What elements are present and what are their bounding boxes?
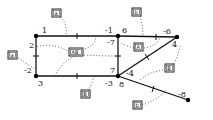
connector-A-left bbox=[120, 43, 134, 48]
port-label: 4 bbox=[172, 40, 177, 49]
svg-text:a: a bbox=[55, 10, 58, 16]
port-label: -7 bbox=[107, 38, 115, 47]
connector-B-bottom bbox=[88, 76, 94, 91]
port-label: -3 bbox=[105, 79, 113, 88]
connector-ab-left bbox=[36, 45, 70, 52]
box-b-top: b bbox=[132, 8, 141, 16]
box-a-top: a bbox=[52, 9, 61, 17]
connector-B-right bbox=[140, 70, 166, 80]
box-a-left: a bbox=[8, 51, 17, 59]
port-label: 8 bbox=[119, 80, 124, 89]
node bbox=[34, 74, 38, 78]
port-label: -6 bbox=[163, 27, 171, 36]
box-A-right: A bbox=[134, 43, 143, 51]
connector-ab-mid bbox=[84, 55, 118, 56]
connector-ab-right bbox=[82, 36, 96, 50]
svg-text:b: b bbox=[135, 9, 138, 15]
node bbox=[116, 34, 120, 38]
port-label: 1 bbox=[42, 26, 47, 35]
connector-b-top bbox=[140, 16, 143, 37]
svg-text:B: B bbox=[167, 65, 171, 71]
box-B-bottom: B bbox=[81, 90, 90, 98]
graph-diagram: 1 2 -1 6 -7 -6 4 -2 3 7 -3 8 -4 -8 a b A… bbox=[0, 0, 213, 120]
node bbox=[175, 35, 179, 39]
tick bbox=[152, 86, 154, 92]
port-label: -1 bbox=[105, 26, 113, 35]
svg-text:a: a bbox=[11, 52, 14, 58]
connector-B-up bbox=[172, 46, 180, 66]
connector-b-bottom bbox=[142, 90, 166, 105]
node bbox=[116, 74, 120, 78]
port-label: -2 bbox=[24, 66, 32, 75]
box-B-right: B bbox=[165, 64, 174, 72]
svg-text:AB: AB bbox=[72, 49, 79, 55]
connector-A-right bbox=[144, 37, 160, 48]
port-label: 2 bbox=[29, 41, 34, 50]
connector-a-top bbox=[60, 17, 66, 36]
port-label: 6 bbox=[122, 26, 127, 35]
port-label: 7 bbox=[110, 66, 115, 75]
node bbox=[186, 98, 190, 102]
edge-top-right bbox=[118, 36, 177, 37]
box-ab-center: AB bbox=[69, 48, 83, 56]
svg-text:b: b bbox=[136, 102, 139, 108]
port-label: -4 bbox=[126, 69, 134, 78]
svg-text:A: A bbox=[137, 44, 141, 50]
box-b-bottom-right: b bbox=[133, 101, 142, 109]
node bbox=[34, 34, 38, 38]
port-label: -8 bbox=[178, 90, 186, 99]
svg-text:B: B bbox=[83, 91, 87, 97]
port-label: 3 bbox=[38, 79, 43, 88]
connector-ab-down bbox=[55, 56, 74, 76]
